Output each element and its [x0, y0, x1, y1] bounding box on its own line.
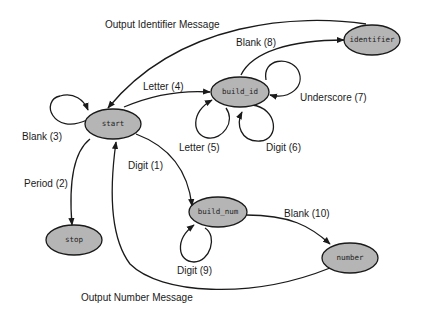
node-identifier: identifier [344, 25, 400, 55]
node-label-stop: stop [65, 235, 84, 244]
node-label-number: number [336, 253, 364, 262]
edge-period-2 [71, 139, 90, 225]
label-underscore-7: Underscore (7) [300, 92, 367, 103]
node-label-build-num: build_num [198, 207, 239, 216]
label-output-identifier: Output Identifier Message [105, 19, 220, 30]
node-number: number [322, 243, 378, 273]
state-diagram: start build_id identifier stop build_num… [0, 0, 425, 319]
node-label-start: start [102, 119, 125, 128]
edge-digit-9-loop [180, 225, 211, 262]
label-letter-5: Letter (5) [179, 142, 220, 153]
edge-blank-10 [246, 215, 330, 244]
edge-digit-6-loop [239, 105, 273, 141]
label-period-2: Period (2) [24, 178, 68, 189]
node-stop: stop [46, 225, 102, 255]
label-digit-1: Digit (1) [128, 160, 163, 171]
edge-underscore-7-loop [266, 61, 300, 96]
label-blank-8: Blank (8) [236, 37, 276, 48]
node-build-num: build_num [189, 197, 247, 227]
edge-blank-3-loop [50, 95, 88, 124]
label-output-number: Output Number Message [81, 292, 193, 303]
label-letter-4: Letter (4) [143, 81, 184, 92]
label-blank-3: Blank (3) [22, 131, 62, 142]
label-digit-6: Digit (6) [266, 142, 301, 153]
label-blank-10: Blank (10) [284, 208, 330, 219]
node-build-id: build_id [211, 77, 269, 107]
node-start: start [85, 109, 141, 139]
node-label-build-id: build_id [222, 87, 258, 96]
node-label-identifier: identifier [349, 35, 395, 44]
edge-letter-4 [124, 92, 210, 107]
label-digit-9: Digit (9) [177, 265, 212, 276]
edge-letter-5-loop [196, 100, 230, 138]
